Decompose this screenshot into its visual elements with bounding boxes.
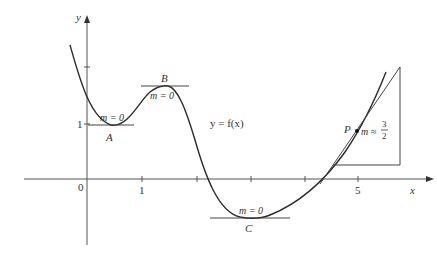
- slope-label-a: m = 0: [100, 112, 124, 123]
- origin-label: 0: [78, 181, 84, 193]
- x-tick-label-5: 5: [355, 184, 361, 196]
- point-p-label: P: [343, 123, 351, 135]
- tangent-line-p: [320, 67, 400, 184]
- function-graph: y x 0 1 5 1 A B C P m = 0 m = 0 m = 0 m …: [0, 0, 437, 261]
- x-axis-label: x: [409, 184, 415, 196]
- function-curve: [70, 45, 386, 218]
- x-axis-arrow-icon: [426, 176, 434, 182]
- point-a-label: A: [105, 131, 113, 143]
- point-p-dot: [355, 129, 359, 133]
- point-b-label: B: [161, 72, 168, 84]
- point-c-label: C: [245, 222, 253, 234]
- slope-label-b: m = 0: [150, 90, 174, 101]
- y-axis-label: y: [75, 11, 81, 23]
- slope-numerator: 3: [382, 119, 387, 129]
- function-label: y = f(x): [210, 117, 244, 130]
- slope-label-p: m ≈: [361, 126, 377, 137]
- y-axis-arrow-icon: [84, 15, 90, 23]
- x-tick-label-1: 1: [139, 184, 145, 196]
- y-tick-label-1: 1: [77, 118, 83, 130]
- slope-label-c: m = 0: [239, 205, 263, 216]
- slope-denominator: 2: [382, 131, 387, 141]
